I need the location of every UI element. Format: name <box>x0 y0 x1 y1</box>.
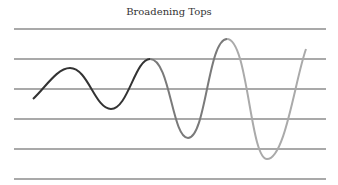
broadening-tops-diagram <box>0 0 338 185</box>
pattern-curve-light <box>227 39 306 159</box>
horizontal-lines <box>14 29 326 179</box>
pattern-curve-dark <box>33 59 150 109</box>
